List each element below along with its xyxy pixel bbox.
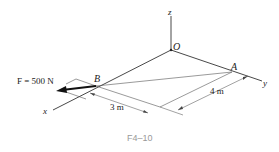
ext-line-1	[160, 107, 183, 115]
force-vector	[62, 86, 96, 90]
dim-arrowhead	[143, 110, 148, 113]
origin-label: O	[173, 41, 180, 52]
force-label: F = 500 N	[17, 76, 54, 86]
edge-b-corner	[96, 86, 160, 107]
figure-caption: F4–10	[127, 133, 153, 143]
dimension-4m-label: 4 m	[210, 86, 224, 96]
z-axis-label: z	[167, 7, 172, 17]
force-arrowhead-icon	[56, 86, 67, 93]
dim-arrowhead	[90, 93, 95, 96]
dim-arrowhead	[243, 76, 248, 80]
origin-point	[170, 49, 172, 51]
dim-arrowhead	[178, 106, 183, 110]
force-component-box	[66, 79, 96, 86]
statics-figure: z O A B y x F = 500 N 3 m 4 m F4–10	[0, 0, 279, 152]
line-ab	[96, 72, 232, 86]
x-axis-label: x	[42, 106, 47, 116]
point-b-label: B	[94, 73, 100, 84]
point-a-label: A	[230, 61, 238, 72]
y-axis	[171, 50, 262, 81]
y-axis-label: y	[262, 78, 267, 88]
dimension-3m-label: 3 m	[110, 102, 124, 112]
geometry-lines	[66, 72, 232, 107]
